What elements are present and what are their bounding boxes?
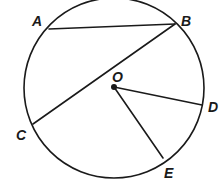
label-B: B	[181, 13, 191, 29]
label-D: D	[208, 99, 218, 115]
label-E: E	[164, 165, 174, 179]
radius-OD	[114, 87, 202, 105]
label-C: C	[16, 127, 27, 143]
chord-AB	[49, 24, 175, 29]
label-O: O	[112, 69, 123, 85]
radius-OE	[114, 87, 163, 158]
label-A: A	[31, 13, 42, 29]
circle-diagram: A B C D E O	[0, 0, 224, 179]
chord-BC	[33, 24, 175, 124]
